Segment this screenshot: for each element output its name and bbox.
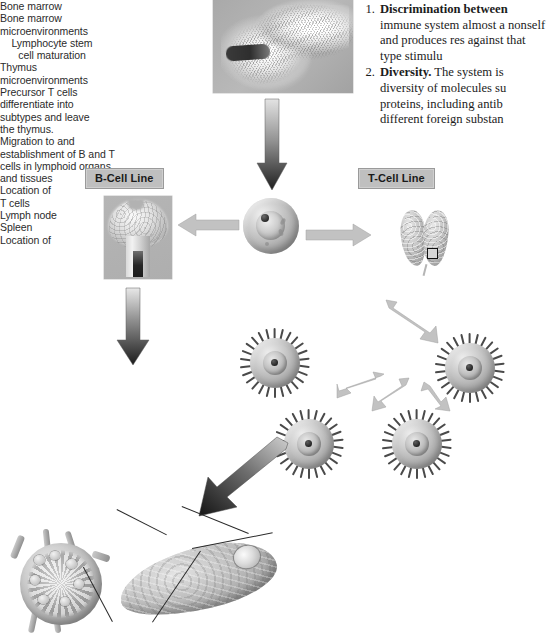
thymus-leader-stalk: [423, 264, 428, 276]
body-text-item-1-lead: Discrimination between: [380, 2, 508, 16]
lymph-node-image: [8, 531, 114, 631]
location-of-t-cells-label: Location of T cells: [0, 184, 90, 209]
spleen-body: [113, 531, 283, 627]
receptor-spike: [416, 468, 418, 479]
receptor-spike: [408, 467, 412, 478]
bone-marrow-label: Bone marrow: [0, 0, 80, 12]
arrow-t-cell-branch-down-left: [372, 378, 410, 412]
lymph-follicle: [30, 575, 40, 585]
lymph-follicle: [66, 559, 77, 569]
receptor-spike: [297, 371, 308, 376]
location-of-label: Location of: [0, 234, 90, 246]
lymph-follicle: [60, 597, 70, 606]
leader-line-t-cells-to-lymph-node: [117, 509, 167, 535]
body-text-column: Discrimination between immune system alm…: [358, 2, 548, 128]
receptor-spike: [290, 380, 298, 389]
lymph-node-label: Lymph node: [0, 209, 90, 221]
femur-notch: [128, 199, 144, 210]
receptor-spike: [274, 387, 276, 398]
lymphocyte-stem-cell: [243, 198, 299, 254]
receptor-spike: [328, 457, 338, 465]
thymus-image: [400, 208, 450, 270]
precursor-t-cells-label: Precursor T cells differentiate into sub…: [0, 86, 108, 135]
lymph-vessel: [10, 535, 25, 560]
t-cell-nucleolus: [271, 359, 278, 366]
receptor-spike: [333, 446, 344, 449]
arrow-bone-marrow-to-stem-cell: [256, 99, 288, 191]
t-cell-lower-right: [384, 411, 450, 477]
receptor-spike: [324, 461, 332, 470]
receptor-spike: [475, 391, 479, 402]
arrow-b-cell-migration: [116, 288, 150, 366]
receptor-spike: [441, 446, 452, 449]
receptor-spike: [485, 385, 493, 394]
body-text-item-2-lead: Diversity.: [380, 65, 431, 79]
receptor-spike: [494, 363, 505, 366]
arrow-thymus-to-t-cell: [386, 300, 440, 344]
t-cell-nucleolus: [305, 440, 312, 447]
receptor-spike: [319, 465, 326, 475]
receptor-spike: [308, 468, 310, 479]
receptor-spike: [439, 452, 450, 457]
receptor-spike: [480, 389, 487, 399]
receptor-spike: [432, 461, 440, 470]
t-cell-nucleolus: [466, 364, 473, 371]
body-text-item-1-rest: immune system almost a nonself and produ…: [380, 18, 545, 63]
lymph-follicle: [38, 595, 49, 604]
receptor-spike: [299, 365, 310, 368]
thymus-inset-marker: [427, 248, 438, 259]
receptor-spike: [469, 392, 471, 403]
lymph-follicle: [74, 579, 84, 589]
receptor-spike: [300, 467, 304, 478]
receptor-spike: [492, 376, 503, 381]
receptor-spike: [422, 467, 426, 478]
t-cell-line-header: T-Cell Line: [358, 168, 435, 189]
bone-marrow-cavity: [226, 43, 271, 61]
arrow-t-cell-branch-down-right: [421, 382, 451, 412]
receptor-spike: [427, 465, 434, 475]
stem-cell-nucleolus: [261, 214, 269, 222]
receptor-spike: [294, 376, 304, 384]
b-cell-line-header: B-Cell Line: [85, 168, 164, 189]
bone-marrow-image: [213, 0, 353, 93]
body-text-item-1: Discrimination between immune system alm…: [378, 2, 548, 64]
receptor-spike: [285, 384, 292, 394]
body-text-list: Discrimination between immune system alm…: [358, 2, 548, 128]
femur-bone-image: [104, 196, 172, 279]
femur-medullary-canal: [133, 251, 143, 277]
receptor-spike: [331, 452, 342, 457]
bone-marrow-microenvironments-label: Bone marrow microenvironments: [0, 12, 94, 37]
lymph-follicle: [34, 555, 45, 565]
receptor-spike: [280, 386, 284, 397]
receptor-spike: [461, 391, 465, 402]
receptor-spike: [299, 358, 310, 361]
receptor-spike: [441, 439, 452, 442]
stem-cell-organelle: [265, 242, 269, 246]
lymphocyte-stem-cell-label: Lymphocyte stem cell maturation: [0, 37, 104, 62]
receptor-spike: [436, 457, 446, 465]
receptor-spike: [489, 381, 499, 389]
arrow-stem-cell-to-thymus: [306, 224, 372, 246]
receptor-spike: [333, 439, 344, 442]
lymph-follicle: [50, 551, 60, 560]
spleen-texture: [113, 531, 283, 627]
spleen-label: Spleen: [0, 221, 60, 233]
receptor-spike: [314, 467, 318, 478]
arrow-stem-cell-to-bone-marrow: [178, 214, 240, 236]
thymus-microenvironments-label: Thymus microenvironments: [0, 61, 100, 86]
receptor-spike: [266, 386, 270, 397]
body-text-item-2: Diversity. The system is diversity of mo…: [378, 65, 548, 127]
arrow-to-lymphoid-organs: [199, 437, 289, 517]
receptor-spike: [494, 370, 505, 373]
t-cell-upper-left: [242, 330, 308, 396]
t-cell-nucleolus: [413, 440, 420, 447]
